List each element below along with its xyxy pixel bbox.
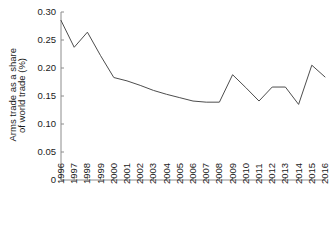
x-axis-tick-label: 1998 <box>83 163 93 184</box>
x-axis-tick-labels: 1996199719981999200020012002200320042005… <box>0 182 332 228</box>
x-axis-tick-label: 2009 <box>228 163 238 184</box>
x-axis-tick-label: 2013 <box>281 163 291 184</box>
x-axis-tick-label: 1997 <box>69 163 79 184</box>
axis-lines <box>61 12 325 180</box>
x-axis-tick-label: 2016 <box>320 163 330 184</box>
x-axis-tick-label: 1996 <box>56 163 66 184</box>
x-axis-tick-label: 2012 <box>267 163 277 184</box>
x-axis-tick-label: 2004 <box>162 163 172 184</box>
x-axis-tick-label: 2007 <box>201 163 211 184</box>
x-axis-tick-label: 2011 <box>254 164 264 184</box>
x-axis-tick-label: 2008 <box>215 163 225 184</box>
x-axis-tick-label: 2003 <box>149 163 159 184</box>
x-axis-tick-label: 2002 <box>135 163 145 184</box>
x-axis-tick-label: 2006 <box>188 163 198 184</box>
x-axis-tick-label: 2014 <box>294 163 304 184</box>
x-axis-tick-label: 2005 <box>175 163 185 184</box>
data-series-line <box>61 20 325 104</box>
chart-container: Arms trade as a share of world trade (%)… <box>0 0 332 228</box>
x-axis-tick-label: 2010 <box>241 163 251 184</box>
x-axis-tick-label: 2001 <box>122 163 132 184</box>
x-axis-tick-label: 2000 <box>109 163 119 184</box>
x-axis-tick-label: 2015 <box>307 163 317 184</box>
x-axis-tick-label: 1999 <box>96 163 106 184</box>
